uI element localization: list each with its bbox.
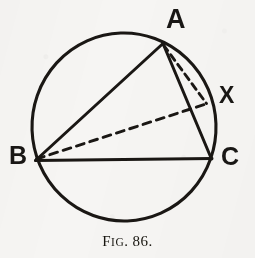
vertex-label-x: X (219, 84, 234, 107)
geometry-diagram (0, 0, 255, 258)
caption-figure-number: 86. (132, 233, 152, 249)
segment-BA (36, 44, 164, 161)
circumscribed-circle (29, 30, 219, 224)
figure-caption: FIG.86. (0, 232, 255, 250)
vertex-label-a: A (166, 6, 186, 33)
figure-container: A X B C FIG.86. (0, 0, 255, 258)
vertex-label-b: B (9, 143, 27, 168)
vertex-label-c: C (221, 144, 239, 169)
segment-BC (36, 159, 213, 161)
caption-period: . (124, 233, 128, 249)
diagram-ink (29, 30, 219, 224)
segment-BX-dashed (37, 104, 207, 159)
caption-smallcaps: IG (111, 236, 124, 248)
caption-lead-letter: F (102, 233, 111, 249)
